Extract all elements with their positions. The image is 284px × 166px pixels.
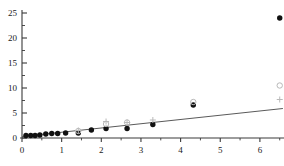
y-tick-label: 25 (8, 8, 18, 18)
x-tick-label: 3 (139, 145, 144, 155)
data-point-filled-circle (49, 131, 54, 136)
scatter-chart: 01234560510152025 (0, 0, 284, 166)
data-point-filled-circle (37, 132, 42, 137)
x-tick-label: 1 (59, 145, 64, 155)
data-point-filled-circle (32, 133, 37, 138)
plot-area: 01234560510152025 (0, 0, 284, 166)
data-point-open-circle (277, 83, 282, 88)
data-point-filled-circle (55, 131, 60, 136)
y-tick-label: 10 (8, 83, 18, 93)
x-tick-label: 0 (20, 145, 25, 155)
data-point-filled-circle (124, 126, 129, 131)
data-point-filled-circle (63, 130, 68, 135)
data-point-filled-circle (89, 127, 94, 132)
data-point-plus (277, 97, 283, 103)
data-point-filled-circle (43, 131, 48, 136)
y-tick-label: 20 (8, 33, 18, 43)
data-point-plus (103, 119, 109, 125)
data-point-filled-circle (23, 133, 28, 138)
x-tick-label: 6 (258, 145, 263, 155)
y-tick-label: 5 (13, 108, 18, 118)
data-point-filled-circle (277, 15, 282, 20)
y-tick-label: 0 (13, 133, 18, 143)
y-tick-label: 15 (8, 58, 18, 68)
x-tick-label: 2 (99, 145, 104, 155)
x-tick-label: 4 (178, 145, 183, 155)
x-tick-label: 5 (218, 145, 223, 155)
